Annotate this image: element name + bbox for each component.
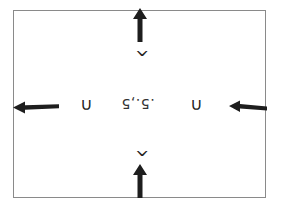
arrow-up-bottom-icon: [132, 164, 148, 198]
arrow-left-right-side-icon: [229, 100, 267, 114]
label-right: ∩: [190, 97, 202, 114]
label-bottom: ^: [135, 140, 149, 157]
arrow-left-icon: [13, 100, 59, 114]
label-left: ∩: [80, 97, 92, 114]
arrow-up-top-icon: [132, 8, 148, 42]
center-label: .5.,5: [121, 96, 155, 112]
label-top: ^: [135, 40, 149, 57]
